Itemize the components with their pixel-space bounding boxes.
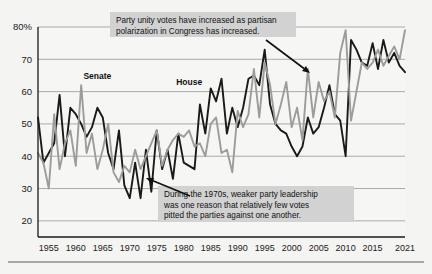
y-tick-label: 80%: [13, 21, 33, 32]
y-tick-label: 60: [21, 86, 32, 97]
y-tick-label: 50: [21, 118, 32, 129]
y-tick-label: 30: [21, 183, 32, 194]
x-tick-label: 2005: [309, 243, 329, 253]
y-tick-label: 40: [21, 151, 32, 162]
x-tick-label: 1975: [147, 243, 167, 253]
y-tick-label: 20: [21, 215, 32, 226]
annotation-bottom-line: pitted the parties against one another.: [164, 211, 301, 220]
x-tick-label: 2021: [395, 243, 415, 253]
series-label-senate: Senate: [83, 71, 111, 81]
x-tick-label: 1990: [228, 243, 248, 253]
x-tick-label: 1970: [120, 243, 140, 253]
x-tick-label: 2000: [282, 243, 302, 253]
x-tick-label: 1960: [66, 243, 86, 253]
series-label-house: House: [176, 77, 202, 87]
annotation-bottom-line: was one reason that relatively few votes: [163, 201, 309, 210]
annotation-top-line: polarization in Congress has increased.: [116, 27, 259, 36]
annotation-top-line: Party unity votes have increased as part…: [116, 16, 277, 25]
x-tick-label: 2015: [363, 243, 383, 253]
y-tick-label: 70: [21, 54, 32, 65]
x-tick-label: 2010: [336, 243, 356, 253]
x-tick-label: 1955: [39, 243, 59, 253]
x-tick-label: 1980: [174, 243, 194, 253]
x-tick-label: 1985: [201, 243, 221, 253]
party-unity-votes-line-chart: 80%706050403020 195519601965197019751980…: [0, 0, 432, 274]
chart-figure: 80%706050403020 195519601965197019751980…: [0, 0, 432, 274]
x-tick-label: 1995: [255, 243, 275, 253]
x-tick-label: 1965: [93, 243, 113, 253]
